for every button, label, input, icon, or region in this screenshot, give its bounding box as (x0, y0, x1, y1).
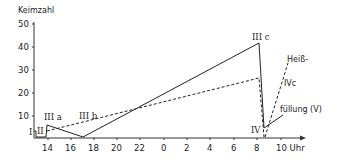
x-tick-20: 20 (111, 143, 122, 153)
y-axis-label: Keimzahl (18, 6, 54, 15)
x-tick-16: 16 (65, 143, 76, 153)
annotation-i: I (29, 127, 32, 137)
x-tick-10: 10 Uhr (276, 143, 305, 153)
x-tick-18: 18 (88, 143, 99, 153)
x-tick-22: 22 (134, 143, 145, 153)
annotation-ii: II (37, 126, 44, 136)
x-tick-4: 4 (207, 143, 212, 153)
germ-count-chart: Keimzahl 50 40 30 20 10 14 16 18 20 22 0… (0, 0, 338, 160)
annotation-iiib: III b (79, 111, 98, 121)
y-tick-50: 50 (18, 19, 29, 29)
x-tick-8: 8 (254, 143, 259, 153)
annotation-fuellung: füllung (V) (280, 105, 322, 114)
x-tick-2: 2 (184, 143, 189, 153)
annotation-heiss: Heiß- (287, 55, 308, 64)
x-axis-arrow-icon (300, 136, 306, 141)
x-tick-6: 6 (231, 143, 236, 153)
annotation-iiic: III c (252, 32, 270, 42)
x-tick-0: 0 (161, 143, 166, 153)
y-tick-40: 40 (18, 42, 29, 52)
y-tick-10: 10 (18, 111, 29, 121)
y-tick-30: 30 (18, 65, 29, 75)
annotation-ivc: IVc (284, 79, 296, 88)
solid-series-line (36, 43, 283, 137)
dashed-series-line (47, 78, 264, 137)
annotation-iv: IV (251, 125, 261, 135)
dashed-series-ivc-line (265, 63, 288, 137)
annotation-iiia: III a (44, 112, 62, 122)
x-tick-14: 14 (42, 143, 53, 153)
y-tick-20: 20 (18, 88, 29, 98)
